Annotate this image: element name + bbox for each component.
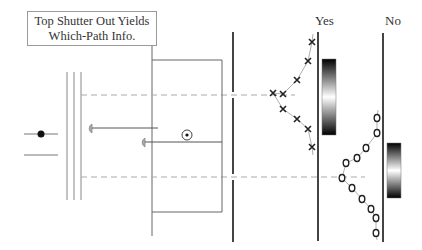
- detector-icon: [182, 130, 192, 140]
- o-marker: [349, 185, 355, 192]
- apparatus-diagram: [0, 0, 422, 250]
- o-marker: [373, 215, 379, 222]
- yes-intensity-bar: [322, 59, 336, 135]
- beam-splitter-lines: [67, 72, 81, 200]
- o-marker: [363, 145, 369, 152]
- o-markers: [339, 115, 380, 237]
- o-marker: [339, 175, 345, 182]
- o-marker: [354, 155, 360, 162]
- x-marker: [294, 116, 300, 122]
- bottom-shutter-icon: [142, 138, 222, 147]
- no-intensity-bar: [387, 143, 401, 198]
- top-shutter-icon: [89, 124, 158, 133]
- o-marker: [374, 115, 380, 122]
- x-marker: [305, 58, 311, 64]
- o-marker: [368, 206, 374, 213]
- o-marker: [359, 196, 365, 203]
- o-marker: [343, 160, 349, 167]
- x-marker: [305, 126, 311, 132]
- o-marker: [374, 130, 380, 137]
- x-marker: [294, 77, 300, 83]
- source-icon: [24, 131, 58, 156]
- no-distribution-curve: [342, 110, 378, 240]
- o-marker: [373, 230, 379, 237]
- x-marker: [280, 106, 286, 112]
